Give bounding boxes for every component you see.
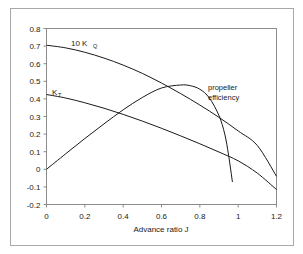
- label-10kq-main: 10 K: [71, 39, 88, 48]
- annotation-line-2: efficiency: [208, 93, 239, 102]
- x-tick-label: 0: [44, 212, 49, 221]
- x-tick-label: 1: [236, 212, 241, 221]
- y-tick-label: 0.4: [29, 95, 41, 104]
- y-tick-label: 0.5: [29, 77, 41, 86]
- y-tick-label: 0.1: [29, 148, 41, 157]
- label-kt: K T: [52, 88, 62, 98]
- x-tick-label: 0.2: [79, 212, 91, 221]
- y-tick-label: 0: [36, 165, 41, 174]
- x-tick-label: 0.8: [194, 212, 206, 221]
- plot-frame: [47, 29, 277, 205]
- x-tick-label: 1.2: [271, 212, 283, 221]
- y-tick-label: 0.8: [29, 25, 41, 34]
- y-tick-label: -0.2: [27, 201, 41, 210]
- y-tick-label: 0.2: [29, 130, 41, 139]
- y-tick-label: -0.1: [27, 183, 41, 192]
- label-10kq-subscript: Q: [93, 43, 98, 49]
- y-tick-label: 0.3: [29, 113, 41, 122]
- series-line-propeller-efficiency: [47, 85, 233, 182]
- y-tick-label: 0.6: [29, 60, 41, 69]
- annotation-line-1: propeller: [208, 83, 238, 92]
- figure-container: 0.80.70.60.50.40.30.20.10-0.1-0.2 00.20.…: [0, 0, 303, 254]
- annotation-propeller-efficiency: propeller efficiency: [208, 83, 239, 102]
- y-tick-label: 0.7: [29, 42, 41, 51]
- label-10kq: 10 K Q: [71, 39, 98, 49]
- x-axis-title: Advance ratio J: [133, 225, 188, 234]
- chart-plot: 0.80.70.60.50.40.30.20.10-0.1-0.2 00.20.…: [0, 0, 303, 254]
- y-axis-tick-labels: 0.80.70.60.50.40.30.20.10-0.1-0.2: [27, 25, 41, 210]
- x-axis-tick-labels: 00.20.40.60.811.2: [44, 212, 282, 221]
- series-line-10kq: [47, 45, 277, 176]
- x-tick-label: 0.6: [156, 212, 168, 221]
- x-tick-label: 0.4: [118, 212, 130, 221]
